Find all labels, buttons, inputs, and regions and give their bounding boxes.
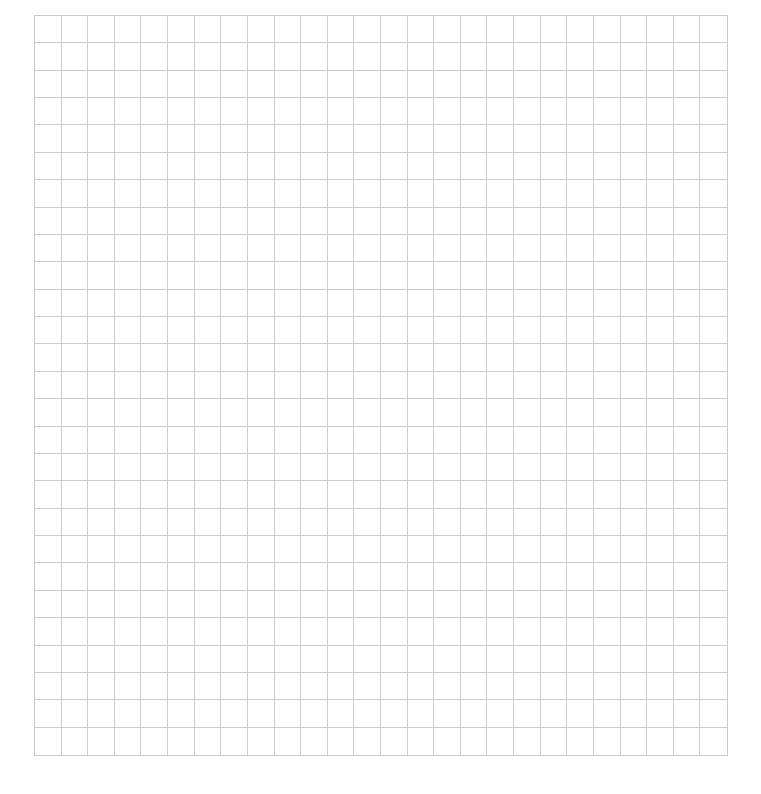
grid-cell — [115, 71, 142, 98]
grid-cell — [514, 125, 541, 152]
grid-cell — [621, 563, 648, 590]
grid-cell — [141, 208, 168, 235]
grid-cell — [621, 427, 648, 454]
grid-cell — [594, 125, 621, 152]
grid-cell — [381, 180, 408, 207]
grid-cell — [700, 372, 727, 399]
grid-cell — [168, 208, 195, 235]
grid-cell — [195, 618, 222, 645]
grid-cell — [700, 646, 727, 673]
grid-cell — [514, 208, 541, 235]
grid-cell — [62, 125, 89, 152]
grid-cell — [301, 180, 328, 207]
grid-cell — [594, 344, 621, 371]
grid-cell — [647, 454, 674, 481]
grid-cell — [88, 700, 115, 727]
grid-cell — [594, 646, 621, 673]
grid-cell — [621, 700, 648, 727]
grid-cell — [35, 563, 62, 590]
grid-cell — [195, 290, 222, 317]
grid-cell — [168, 673, 195, 700]
grid-cell — [434, 536, 461, 563]
grid-cell — [594, 153, 621, 180]
grid-cell — [115, 673, 142, 700]
grid-cell — [434, 372, 461, 399]
grid-cell — [168, 43, 195, 70]
grid-cell — [354, 646, 381, 673]
grid-cell — [514, 235, 541, 262]
grid-cell — [700, 125, 727, 152]
grid-cell — [301, 399, 328, 426]
grid-cell — [168, 509, 195, 536]
grid-cell — [275, 98, 302, 125]
grid-cell — [647, 262, 674, 289]
grid-cell — [195, 563, 222, 590]
grid-cell — [88, 509, 115, 536]
grid-cell — [434, 481, 461, 508]
grid-cell — [275, 43, 302, 70]
grid-cell — [62, 208, 89, 235]
grid-cell — [35, 372, 62, 399]
grid-cell — [62, 372, 89, 399]
grid-cell — [35, 290, 62, 317]
grid-cell — [408, 399, 435, 426]
grid-cell — [381, 317, 408, 344]
grid-cell — [301, 563, 328, 590]
grid-cell — [115, 235, 142, 262]
grid-cell — [221, 509, 248, 536]
grid-cell — [221, 728, 248, 755]
grid-cell — [594, 372, 621, 399]
grid-cell — [567, 71, 594, 98]
grid-cell — [88, 317, 115, 344]
grid-cell — [541, 372, 568, 399]
grid-cell — [647, 372, 674, 399]
grid-cell — [88, 728, 115, 755]
grid-cell — [248, 262, 275, 289]
grid-cell — [381, 728, 408, 755]
grid-cell — [567, 262, 594, 289]
grid-cell — [514, 153, 541, 180]
grid-cell — [621, 262, 648, 289]
grid-cell — [275, 372, 302, 399]
grid-cell — [115, 344, 142, 371]
grid-cell — [35, 536, 62, 563]
grid-cell — [434, 618, 461, 645]
grid-cell — [434, 208, 461, 235]
grid-cell — [461, 71, 488, 98]
grid-cell — [567, 43, 594, 70]
grid-cell — [408, 125, 435, 152]
grid-cell — [647, 290, 674, 317]
grid-cell — [301, 481, 328, 508]
grid-cell — [35, 180, 62, 207]
grid-cell — [514, 618, 541, 645]
grid-cell — [62, 509, 89, 536]
grid-cell — [408, 43, 435, 70]
grid-cell — [674, 317, 701, 344]
grid-cell — [248, 71, 275, 98]
grid-cell — [487, 509, 514, 536]
grid-cell — [141, 454, 168, 481]
grid-cell — [674, 98, 701, 125]
grid-cell — [434, 317, 461, 344]
grid-cell — [381, 618, 408, 645]
grid-cell — [168, 454, 195, 481]
grid-cell — [567, 728, 594, 755]
grid-cell — [221, 71, 248, 98]
grid-cell — [541, 509, 568, 536]
grid-cell — [88, 591, 115, 618]
grid-cell — [62, 16, 89, 43]
grid-cell — [514, 536, 541, 563]
grid-cell — [328, 399, 355, 426]
grid-cell — [168, 290, 195, 317]
grid-cell — [195, 591, 222, 618]
grid-cell — [141, 153, 168, 180]
grid-cell — [647, 153, 674, 180]
grid-cell — [567, 481, 594, 508]
grid-cell — [275, 262, 302, 289]
grid-cell — [674, 399, 701, 426]
grid-cell — [248, 481, 275, 508]
grid-cell — [434, 344, 461, 371]
grid-cell — [700, 43, 727, 70]
grid-cell — [248, 235, 275, 262]
grid-cell — [328, 646, 355, 673]
